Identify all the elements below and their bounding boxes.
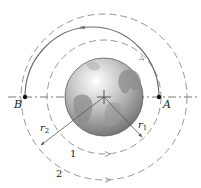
- label-B: B: [13, 98, 22, 111]
- orbit-1-upper-arrow-icon: [139, 56, 144, 60]
- point-A: [157, 95, 161, 99]
- hohmann-diagram: A B r1 r2 1 2: [0, 0, 201, 188]
- label-orbit-2: 2: [56, 168, 62, 179]
- orbit-1-arrow-icon: [105, 152, 110, 157]
- label-r2: r2: [40, 122, 49, 135]
- label-orbit-1: 1: [70, 148, 76, 159]
- label-A: A: [162, 98, 171, 111]
- point-B: [23, 95, 27, 99]
- label-r1: r1: [138, 119, 147, 132]
